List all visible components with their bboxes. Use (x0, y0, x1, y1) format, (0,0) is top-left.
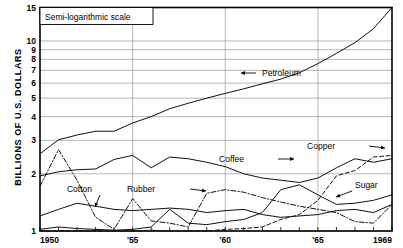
y-tick-label: 5 (31, 93, 36, 103)
gridlines (40, 8, 392, 232)
semi-log-annotation-text: Semi-logarithmic scale (45, 12, 131, 22)
series-label-arrowhead-coffee (290, 157, 294, 161)
y-axis-tick-labels: 1510987654321 (27, 3, 37, 237)
x-axis-tick-labels: 1950'55'60'651969 (40, 235, 392, 245)
x-tick-label: '55 (127, 235, 139, 245)
series-label-cotton: Cotton (67, 184, 92, 194)
series-line-petroleum (40, 8, 392, 154)
y-tick-label: 8 (31, 54, 36, 64)
x-tick-label: 1950 (40, 235, 59, 245)
y-tick-label: 7 (31, 65, 36, 75)
series-label-copper: Copper (307, 141, 335, 151)
series-labels: PetroleumCoffeeCopperSugarCottonRubber (67, 68, 385, 207)
series-line-coffee (40, 155, 392, 182)
series-label-coffee: Coffee (219, 154, 244, 164)
x-tick-label: 1969 (373, 235, 392, 245)
y-tick-label: 15 (27, 3, 37, 13)
series-line-cotton (40, 203, 392, 217)
series-label-petroleum: Petroleum (262, 68, 301, 78)
y-tick-label: 4 (31, 112, 36, 122)
chart-container: BILLIONS OF U.S. DOLLARS 1510987654321 1… (0, 0, 403, 248)
y-tick-label: 1 (31, 226, 36, 236)
series-label-rubber: Rubber (127, 184, 155, 194)
y-tick-label: 6 (31, 78, 36, 88)
line-chart-plot: 1510987654321 1950'55'60'651969 Semi-log… (0, 0, 403, 248)
y-tick-label: 2 (31, 169, 36, 179)
series-label-sugar: Sugar (355, 180, 378, 190)
scale-annotation: Semi-logarithmic scale (40, 8, 153, 25)
series-line-rubber (40, 150, 392, 230)
y-tick-label: 3 (31, 135, 36, 145)
series-label-arrowhead-petroleum (241, 71, 245, 75)
x-tick-label: '60 (220, 235, 232, 245)
x-tick-label: '65 (312, 235, 324, 245)
y-tick-label: 9 (31, 45, 36, 55)
